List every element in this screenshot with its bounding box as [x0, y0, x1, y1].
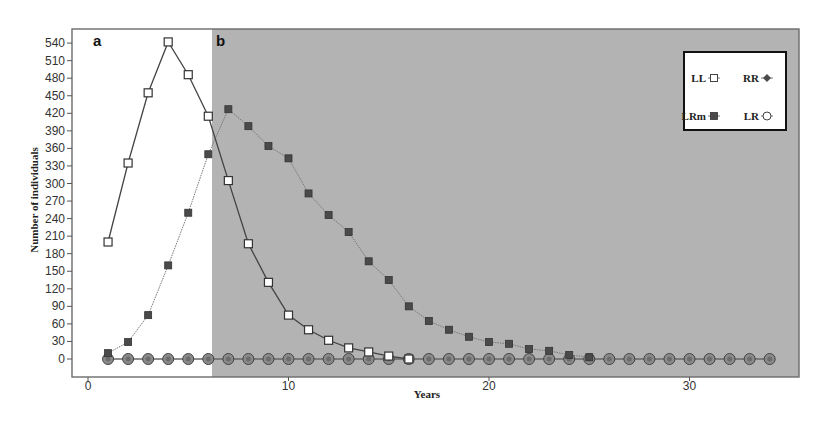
data-point-lrm: [205, 151, 212, 158]
y-tick-label: 360: [45, 141, 65, 155]
y-tick-label: 120: [45, 282, 65, 296]
data-point-ll: [405, 355, 413, 363]
data-point-lr-inner: [106, 357, 111, 362]
data-point-lr-inner: [346, 357, 351, 362]
data-point-lrm: [526, 346, 533, 353]
data-point-lr-inner: [166, 357, 171, 362]
data-point-lrm: [305, 190, 312, 197]
y-tick-label: 150: [45, 264, 65, 278]
data-point-lrm: [365, 258, 372, 265]
x-axis-title: Years: [414, 388, 441, 400]
x-tick-label: 0: [85, 379, 92, 393]
data-point-lr-inner: [466, 357, 471, 362]
data-point-lrm: [486, 339, 493, 346]
data-point-lrm: [245, 123, 252, 130]
data-point-lrm: [265, 143, 272, 150]
data-point-lr-inner: [607, 357, 612, 362]
y-tick-label: 510: [45, 54, 65, 68]
data-point-lrm: [586, 354, 593, 361]
y-tick-label: 330: [45, 159, 65, 173]
x-tick-label: 30: [683, 379, 697, 393]
data-point-lrm: [345, 229, 352, 236]
data-point-lrm: [405, 303, 412, 310]
data-point-lrm: [285, 155, 292, 162]
data-point-ll: [285, 311, 293, 319]
y-tick-label: 60: [52, 317, 66, 331]
data-point-lr-inner: [246, 357, 251, 362]
data-point-lr-inner: [306, 357, 311, 362]
y-tick-label: 240: [45, 212, 65, 226]
y-tick-label: 270: [45, 194, 65, 208]
legend-marker-lr: [763, 112, 771, 120]
data-point-lr-inner: [767, 357, 772, 362]
data-point-lr-inner: [747, 357, 752, 362]
data-point-lrm: [445, 326, 452, 333]
data-point-ll: [244, 240, 252, 248]
data-point-lr-inner: [727, 357, 732, 362]
data-point-lr-inner: [126, 357, 131, 362]
data-point-lrm: [385, 277, 392, 284]
data-point-lr-inner: [266, 357, 271, 362]
data-point-lr-inner: [206, 357, 211, 362]
y-tick-label: 210: [45, 229, 65, 243]
chart: 0306090120150180210240270300330360390420…: [0, 0, 823, 424]
x-tick-label: 10: [282, 379, 296, 393]
data-point-lr-inner: [627, 357, 632, 362]
legend-label-ll: LL: [691, 72, 706, 84]
data-point-lrm: [185, 209, 192, 216]
y-tick-label: 480: [45, 71, 65, 85]
data-point-ll: [305, 326, 313, 334]
data-point-lrm: [325, 212, 332, 219]
panel-label-a: a: [93, 32, 102, 49]
data-point-lrm: [566, 351, 573, 358]
data-point-ll: [184, 71, 192, 79]
data-point-ll: [104, 238, 112, 246]
data-point-lr-inner: [507, 357, 512, 362]
data-point-lr-inner: [326, 357, 331, 362]
data-point-lr-inner: [707, 357, 712, 362]
x-tick-label: 20: [482, 379, 496, 393]
data-point-ll: [264, 278, 272, 286]
data-point-lrm: [506, 340, 513, 347]
data-point-lrm: [125, 339, 132, 346]
data-point-lrm: [145, 312, 152, 319]
data-point-ll: [164, 38, 172, 46]
data-point-lrm: [465, 333, 472, 340]
legend-label-lrm: LRm: [682, 110, 706, 122]
data-point-lr-inner: [687, 357, 692, 362]
y-tick-label: 30: [52, 334, 66, 348]
data-point-lrm: [165, 262, 172, 269]
y-axis-title: Number of individuals: [28, 147, 40, 253]
legend-marker-ll: [711, 75, 718, 82]
y-tick-label: 90: [52, 299, 66, 313]
y-tick-label: 420: [45, 106, 65, 120]
y-tick-label: 0: [58, 352, 65, 366]
legend-label-lr: LR: [744, 110, 760, 122]
y-tick-label: 540: [45, 36, 65, 50]
data-point-lr-inner: [647, 357, 652, 362]
y-tick-label: 390: [45, 124, 65, 138]
data-point-lrm: [225, 106, 232, 113]
data-point-ll: [144, 89, 152, 97]
data-point-lr-inner: [527, 357, 532, 362]
data-point-lrm: [425, 317, 432, 324]
data-point-lr-inner: [487, 357, 492, 362]
legend: LLRRLRmLR: [682, 52, 786, 130]
y-tick-label: 180: [45, 247, 65, 261]
data-point-ll: [345, 344, 353, 352]
data-point-lr-inner: [186, 357, 191, 362]
data-point-lr-inner: [667, 357, 672, 362]
legend-marker-lrm: [711, 113, 718, 120]
panel-label-b: b: [216, 32, 225, 49]
data-point-lr-inner: [446, 357, 451, 362]
data-point-lrm: [105, 350, 112, 357]
data-point-lr-inner: [426, 357, 431, 362]
data-point-lr-inner: [547, 357, 552, 362]
data-point-lr-inner: [146, 357, 151, 362]
data-point-lrm: [546, 347, 553, 354]
data-point-lr-inner: [286, 357, 291, 362]
y-tick-label: 450: [45, 89, 65, 103]
data-point-ll: [325, 336, 333, 344]
legend-label-rr: RR: [743, 72, 760, 84]
data-point-ll: [385, 352, 393, 360]
